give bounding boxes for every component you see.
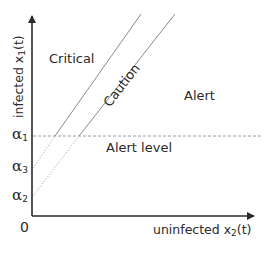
tick-alpha-2-sub: 2: [22, 194, 28, 204]
tick-alpha-2: α2: [12, 188, 28, 204]
tick-alpha-1-sub: 1: [22, 133, 28, 143]
y-axis-label-main: infected x: [11, 56, 26, 118]
tick-alpha-1-symbol: α: [12, 125, 22, 143]
y-axis-label-tail: (t): [11, 35, 26, 50]
tick-alpha-2-symbol: α: [12, 186, 22, 204]
tick-alpha-3: α3: [12, 159, 28, 175]
upper-boundary-dotted: [33, 136, 55, 168]
threshold-diagram: infected x1(t) uninfected x2(t) 0 α1 α3 …: [0, 0, 269, 253]
region-critical-label: Critical: [49, 52, 94, 65]
region-alert-level-label: Alert level: [106, 141, 172, 154]
tick-alpha-3-sub: 3: [22, 165, 28, 175]
y-axis-label: infected x1(t): [13, 35, 27, 118]
diagram-graphics: [0, 0, 269, 253]
x-axis-label-main: uninfected x: [153, 222, 231, 237]
lower-boundary-dotted: [33, 136, 79, 196]
tick-alpha-1: α1: [12, 127, 28, 143]
region-alert-label: Alert: [184, 89, 215, 102]
y-axis-label-sub: 1: [17, 50, 27, 56]
x-axis-label-tail: (t): [237, 222, 252, 237]
tick-alpha-3-symbol: α: [12, 157, 22, 175]
x-axis-label: uninfected x2(t): [153, 224, 252, 238]
origin-label: 0: [20, 220, 29, 234]
